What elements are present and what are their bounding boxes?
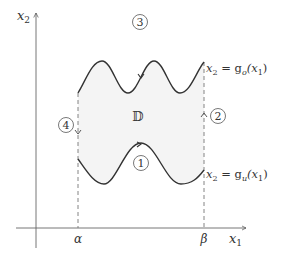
boundary-label-2-text: 2 [215, 110, 222, 123]
upper-curve-label: x2 = go(x1) [206, 61, 267, 77]
boundary-label-4-text: 4 [63, 119, 70, 132]
y-axis-label: x2 [17, 8, 30, 25]
boundary-label-1-text: 1 [138, 157, 145, 170]
boundary-label-1: 1 [134, 156, 149, 171]
boundary-label-3: 3 [133, 15, 148, 30]
x-axis-label: x1 [229, 231, 242, 248]
lower-curve-label: x2 = gu(x1) [206, 167, 268, 183]
alpha-label: α [74, 232, 82, 246]
boundary-label-4: 4 [59, 118, 74, 133]
boundary-label-2: 2 [211, 109, 226, 124]
region-label: 𝔻 [132, 109, 143, 124]
beta-label: β [200, 232, 208, 246]
domain-diagram: 1 2 3 4 𝔻 x2 x1 α β x2 = go(x1) x2 = gu(… [0, 0, 282, 261]
boundary-label-3-text: 3 [137, 16, 144, 29]
